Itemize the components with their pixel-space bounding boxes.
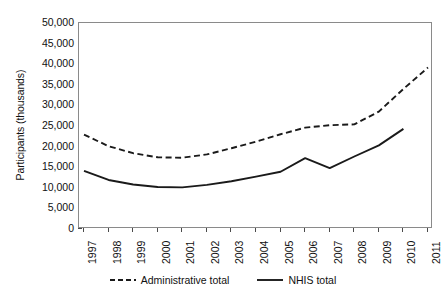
x-axis-tick-label: 1997	[87, 241, 98, 264]
x-axis-tick-mark	[304, 228, 305, 232]
legend-label: NHIS total	[288, 274, 336, 286]
x-axis-tick-mark	[181, 228, 182, 232]
x-axis-tick-labels: 1997199819992000200120022003200420052006…	[0, 0, 446, 298]
chart-figure: Participants (thousands) 05,00010,00015,…	[0, 0, 446, 298]
legend-swatch-icon	[257, 275, 283, 285]
x-axis-tick-label: 2002	[210, 241, 221, 264]
x-axis-tick-label: 2003	[234, 241, 245, 264]
x-axis-tick-mark	[83, 228, 84, 232]
x-axis-tick-label: 2010	[406, 241, 417, 264]
legend-entry[interactable]: NHIS total	[257, 273, 336, 286]
x-axis-tick-mark	[206, 228, 207, 232]
legend-label: Administrative total	[141, 274, 230, 286]
x-axis-tick-mark	[157, 228, 158, 232]
x-axis-tick-label: 2009	[382, 241, 393, 264]
x-axis-tick-mark	[280, 228, 281, 232]
x-axis-tick-label: 2000	[161, 241, 172, 264]
x-axis-tick-mark	[108, 228, 109, 232]
x-axis-tick-label: 2001	[185, 241, 196, 264]
x-axis-tick-mark	[353, 228, 354, 232]
x-axis-tick-label: 2008	[357, 241, 368, 264]
chart-legend: Administrative totalNHIS total	[0, 272, 446, 286]
x-axis-tick-label: 2005	[284, 241, 295, 264]
legend-swatch-icon	[110, 275, 136, 285]
x-axis-tick-label: 2011	[431, 241, 442, 264]
x-axis-tick-mark	[329, 228, 330, 232]
x-axis-tick-label: 2007	[333, 241, 344, 264]
x-axis-tick-mark	[427, 228, 428, 232]
legend-entry[interactable]: Administrative total	[110, 273, 230, 286]
x-axis-tick-mark	[230, 228, 231, 232]
x-axis-tick-label: 1998	[112, 241, 123, 264]
x-axis-tick-mark	[132, 228, 133, 232]
x-axis-tick-mark	[378, 228, 379, 232]
x-axis-tick-label: 2006	[308, 241, 319, 264]
x-axis-tick-label: 2004	[259, 241, 270, 264]
x-axis-tick-label: 1999	[136, 241, 147, 264]
x-axis-tick-mark	[255, 228, 256, 232]
x-axis-tick-mark	[402, 228, 403, 232]
